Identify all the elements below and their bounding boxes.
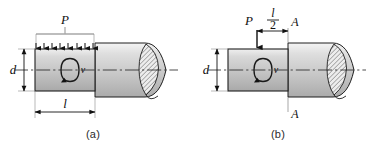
length-label-a: l (63, 96, 67, 111)
shaft-large-section-b (288, 43, 354, 99)
half-length-denominator: 2 (270, 18, 276, 32)
load-label-a: P (60, 12, 69, 27)
torque-label-b: v (274, 64, 279, 75)
shaft-loading-figure: P d l v (a) (0, 0, 371, 155)
shaft-large-section-a (95, 43, 166, 99)
panel-b: P l 2 d v A A (b) (185, 0, 371, 155)
torque-label-a: v (81, 64, 86, 75)
diameter-label-b: d (203, 62, 210, 77)
section-label-a-top: A (290, 15, 299, 29)
panel-a-caption: (a) (0, 128, 186, 140)
diameter-label-a: d (10, 62, 17, 77)
half-length-fraction-b: l 2 (267, 6, 279, 32)
distributed-load-a (36, 27, 94, 49)
load-label-b: P (244, 13, 253, 28)
section-label-a-bottom: A (290, 107, 299, 121)
panel-b-caption: (b) (185, 128, 371, 140)
panel-a: P d l v (a) (0, 0, 186, 155)
